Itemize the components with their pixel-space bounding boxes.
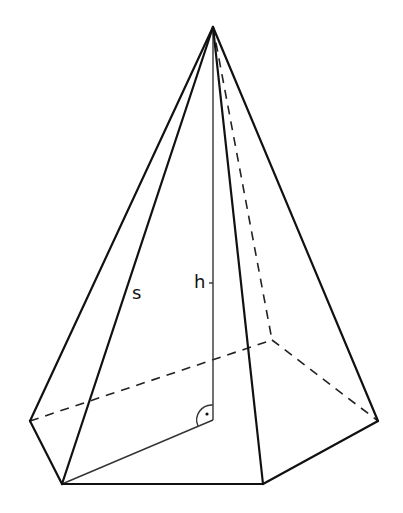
foot-to-vertex-line [62, 420, 213, 484]
label-s: s [132, 282, 141, 303]
base-edge-frontright-right [263, 421, 378, 484]
label-h: h [194, 271, 205, 292]
pyramid-diagram [0, 0, 403, 513]
lateral-edge-left [30, 27, 213, 421]
hidden-base-edge-left-back [30, 340, 272, 421]
lateral-edge-s [62, 27, 213, 484]
base-edge-left-frontleft [30, 421, 62, 484]
right-angle-dot [205, 412, 208, 415]
lateral-edge-right [213, 27, 378, 421]
